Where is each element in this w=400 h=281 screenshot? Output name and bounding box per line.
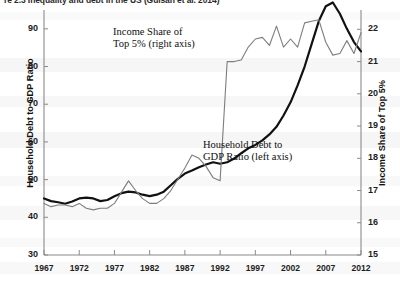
- income-share-line: [44, 20, 361, 210]
- x-tick-label: 1972: [59, 263, 99, 273]
- x-tick-label: 1992: [200, 263, 240, 273]
- right-tick-label: 17: [368, 185, 390, 195]
- right-tick-label: 22: [368, 23, 390, 33]
- x-tick-label: 1987: [165, 263, 205, 273]
- figure-title-strip: re 2.3 Inequality and debt in the US (Gu…: [0, 0, 400, 9]
- right-tick-label: 21: [368, 56, 390, 66]
- left-tick-label: 60: [16, 136, 38, 146]
- x-tick-label: 1982: [130, 263, 170, 273]
- x-tick-label: 2007: [306, 263, 346, 273]
- right-tick-label: 20: [368, 88, 390, 98]
- annotation-debt-line2: GDP Ratio (left axis): [203, 151, 292, 163]
- left-tick-label: 40: [16, 211, 38, 221]
- right-tick-label: 15: [368, 249, 390, 259]
- right-tick-label: 19: [368, 120, 390, 130]
- left-tick-label: 90: [16, 23, 38, 33]
- left-tick-label: 50: [16, 174, 38, 184]
- annotation-income-share: Income Share of Top 5% (right axis): [113, 26, 195, 50]
- annotation-income-line1: Income Share of: [113, 26, 195, 38]
- x-tick-label: 1967: [24, 263, 64, 273]
- annotation-debt-line1: Household Debt to: [203, 139, 292, 151]
- figure-title: re 2.3 Inequality and debt in the US (Gu…: [4, 0, 219, 5]
- left-tick-label: 30: [16, 249, 38, 259]
- annotation-income-line2: Top 5% (right axis): [113, 38, 195, 50]
- chart-plot-area: [0, 0, 400, 281]
- right-tick-label: 16: [368, 217, 390, 227]
- x-tick-label: 2002: [271, 263, 311, 273]
- chart-svg: [0, 0, 400, 281]
- annotation-household-debt: Household Debt to GDP Ratio (left axis): [203, 139, 292, 163]
- x-tick-label: 1997: [235, 263, 275, 273]
- x-tick-label: 2012: [341, 263, 381, 273]
- left-tick-label: 80: [16, 61, 38, 71]
- household-debt-line: [44, 2, 361, 203]
- x-tick-label: 1977: [94, 263, 134, 273]
- left-tick-label: 70: [16, 98, 38, 108]
- right-tick-label: 18: [368, 152, 390, 162]
